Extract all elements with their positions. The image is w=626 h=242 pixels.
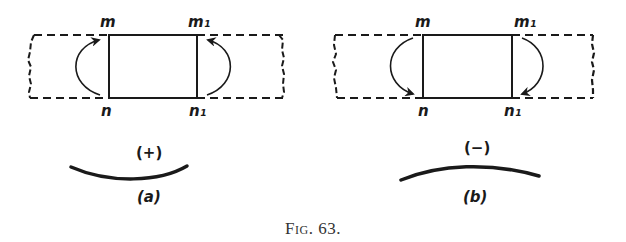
panel-b-break-left [333,35,337,98]
panel-a-moment-arrow-right [207,40,230,95]
panel-b-beam [333,35,594,180]
panel-a-deflection-curve [71,166,187,179]
panel-a-break-left [28,35,34,98]
panel-b-id: (b) [463,190,487,205]
panel-b-label-n: n [418,104,429,119]
diagram-canvas [0,0,626,242]
panel-b-label-m1: m₁ [514,15,536,30]
panel-b-label-n1: n₁ [504,104,521,119]
panel-b-sign: (−) [464,141,490,156]
panel-a-label-m: m [100,15,116,30]
panel-b-element-rect [423,35,512,98]
panel-b-label-m: m [415,15,431,30]
figure-63: m m₁ n n₁ m m₁ n n₁ (+) (−) (a) (b) Fig.… [0,0,626,242]
panel-a-label-n1: n₁ [189,104,206,119]
panel-a-moment-arrow-left [76,40,100,95]
panel-a-sign: (+) [136,146,162,161]
panel-a-id: (a) [137,190,161,205]
panel-b-break-right [592,35,594,98]
figure-caption: Fig. 63. [0,219,626,239]
panel-b-deflection-curve [401,167,539,180]
panel-a-label-n: n [101,104,112,119]
panel-a-label-m1: m₁ [188,15,210,30]
figure-caption-text: Fig. 63. [285,219,341,238]
panel-b-moment-arrow-left [391,38,414,94]
panel-a-element-rect [109,35,197,98]
panel-b-moment-arrow-right [522,38,543,94]
panel-a-break-right [279,35,284,98]
